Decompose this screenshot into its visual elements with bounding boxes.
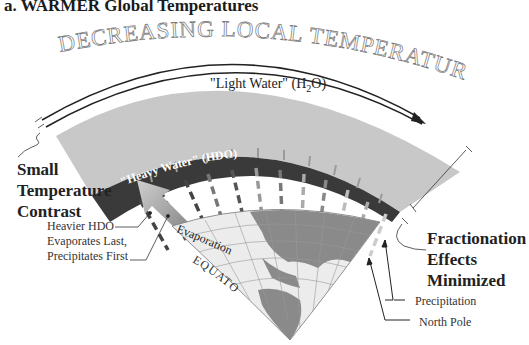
light-water-label: "Light Water" (H2O) — [210, 76, 326, 94]
precipitation-label: Precipitation — [415, 293, 476, 309]
left-bracket — [18, 133, 40, 157]
pointer-leaders — [367, 240, 410, 320]
small-temperature-contrast-label: Small Temperature Contrast — [17, 159, 111, 222]
fractionation-effects-label: Fractionation Effects Minimized — [427, 228, 526, 291]
hdo-note: Heavier HDO Evaporates Last, Precipitate… — [47, 219, 128, 264]
north-pole-label: North Pole — [419, 314, 471, 330]
globe-segment — [172, 207, 380, 340]
